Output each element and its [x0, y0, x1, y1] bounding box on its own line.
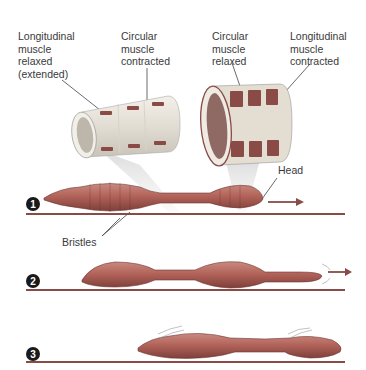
svg-text:3: 3 [30, 349, 36, 360]
earthworm-3 [138, 333, 341, 358]
step-2: 2 [26, 262, 352, 290]
arrow-right-icon [345, 268, 352, 276]
step-3: 3 [26, 326, 345, 362]
muscle-cylinder-contracted-circular [69, 96, 180, 159]
svg-text:1: 1 [30, 199, 36, 210]
earthworm-2 [82, 262, 322, 288]
step-1: 1 [26, 182, 345, 214]
motion-lines [322, 264, 330, 284]
svg-text:2: 2 [30, 276, 36, 287]
diagram-canvas: 1 2 3 [0, 0, 366, 370]
muscle-cylinder-contracted-longitudinal [198, 84, 292, 167]
arrow-right-icon [296, 198, 304, 206]
